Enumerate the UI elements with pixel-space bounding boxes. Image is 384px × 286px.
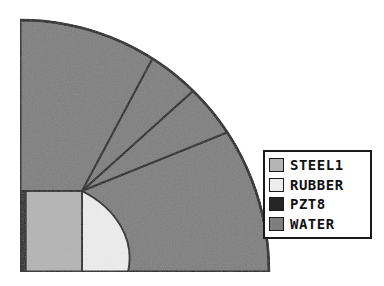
legend-label-rubber: RUBBER — [290, 178, 344, 192]
legend-swatch-rubber — [269, 178, 284, 192]
legend-item-water: WATER — [269, 214, 368, 234]
legend-label-steel1: STEEL1 — [290, 158, 344, 172]
legend-label-pzt8: PZT8 — [290, 197, 326, 211]
legend-swatch-steel1 — [269, 158, 284, 172]
legend-swatch-pzt8 — [269, 197, 284, 211]
legend-item-steel1: STEEL1 — [269, 155, 368, 175]
legend-item-pzt8: PZT8 — [269, 195, 368, 215]
legend-item-rubber: RUBBER — [269, 175, 368, 195]
fem-material-map-figure: STEEL1 RUBBER PZT8 WATER — [0, 0, 384, 286]
legend-swatch-water — [269, 217, 284, 231]
legend-label-water: WATER — [290, 217, 335, 231]
steel-block — [20, 191, 82, 272]
model-geometry-svg — [0, 0, 384, 286]
material-legend: STEEL1 RUBBER PZT8 WATER — [263, 150, 372, 239]
